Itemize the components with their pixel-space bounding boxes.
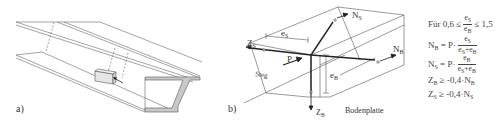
- panel-b-label: b): [228, 103, 236, 115]
- fraction-es-eb: eS eB: [463, 14, 472, 35]
- fraction-ns: eB eS+eB: [458, 54, 476, 75]
- panel-b-box: [244, 7, 404, 103]
- panel-b-arrows: [246, 13, 396, 110]
- panel-a-girder: [16, 22, 202, 112]
- label-n-s: NS: [352, 10, 362, 21]
- formula-condition: Für 0,6 ≤ eS eB ≤ 1,5: [428, 14, 493, 35]
- label-e-b: eB: [330, 70, 338, 81]
- formula-zs: ZS ≥ -0,4·NS: [428, 90, 473, 100]
- formula-ns: NS = P· eB eS+eB: [428, 54, 476, 75]
- label-steg: Steg: [255, 70, 269, 80]
- label-z-s: ZS: [247, 38, 256, 49]
- panel-b-force-lines: [250, 22, 375, 92]
- label-n-b: NB: [393, 44, 404, 55]
- label-z-b: ZB: [316, 108, 325, 118]
- fraction-nb: eS eS+eB: [458, 35, 476, 56]
- panel-a-cross-section: [145, 77, 200, 112]
- formula-zb: ZB ≥ -0,4·NB: [428, 76, 475, 86]
- label-p: P: [287, 54, 292, 64]
- panel-a-load-element: [95, 69, 123, 84]
- label-e-s: eS: [281, 28, 288, 39]
- formula-nb: NB = P· eS eS+eB: [428, 35, 477, 56]
- panel-a-label: a): [16, 103, 24, 115]
- label-bodenplatte: Bodenplatte: [345, 106, 384, 115]
- diagram-canvas: a): [0, 0, 502, 124]
